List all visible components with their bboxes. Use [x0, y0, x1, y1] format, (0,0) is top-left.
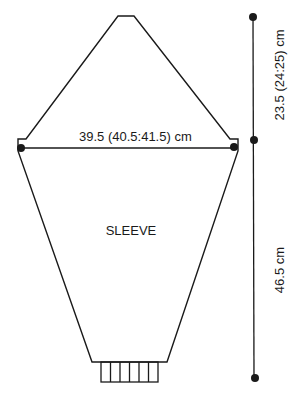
bottom-dot — [251, 374, 259, 382]
sleeve-length-label: 46.5 cm — [272, 247, 287, 293]
sleeve-outline — [18, 16, 238, 362]
width-measurement-line — [17, 143, 238, 152]
cap-height-label: 23.5 (24:25) cm — [272, 29, 287, 120]
width-left-dot — [17, 144, 25, 152]
cuff-ribbing — [101, 362, 158, 382]
length-measurement-line — [249, 13, 259, 382]
piece-label: SLEEVE — [106, 223, 157, 238]
middle-dot — [250, 136, 258, 144]
width-measurement-label: 39.5 (40.5:41.5) cm — [79, 129, 192, 144]
top-dot — [249, 13, 257, 21]
sleeve-schematic: 39.5 (40.5:41.5) cm 23.5 (24:25) cm 46.5… — [0, 0, 288, 403]
width-right-dot — [230, 143, 238, 151]
